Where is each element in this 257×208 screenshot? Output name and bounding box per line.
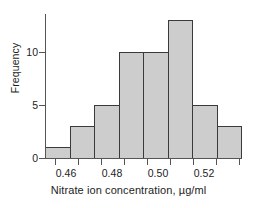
histogram-bar: [70, 126, 96, 158]
histogram-bar: [143, 52, 169, 158]
x-axis-title: Nitrate ion concentration, µg/ml: [0, 184, 257, 196]
x-tick-label-052: 0.52: [187, 167, 221, 179]
x-tick-label-048: 0.48: [95, 167, 129, 179]
x-axis-line: [45, 158, 242, 159]
x-tick-label-050: 0.50: [141, 167, 175, 179]
y-tick-label-0: 0: [12, 153, 38, 163]
x-tick-mark-7: [216, 159, 217, 165]
histogram-bar: [192, 105, 218, 158]
x-tick-mark-5: [170, 159, 171, 165]
histogram-bar: [168, 20, 194, 158]
histogram-bar: [45, 147, 71, 158]
y-tick-mark-0: [39, 158, 46, 159]
plot-area: [45, 14, 241, 158]
x-tick-mark-0: [55, 159, 56, 165]
y-axis-line: [45, 14, 46, 159]
histogram-bar: [217, 126, 243, 158]
x-tick-mark-2: [101, 159, 102, 165]
x-tick-label-046: 0.46: [49, 167, 83, 179]
x-tick-mark-6: [193, 159, 194, 165]
histogram-figure: 0 5 10 0.46 0.48 0.50 0.52 Frequency Nit…: [0, 0, 257, 208]
x-tick-mark-3: [124, 159, 125, 165]
y-axis-title: Frequency: [9, 20, 21, 116]
histogram-bar: [94, 105, 120, 158]
x-tick-mark-8: [239, 159, 240, 165]
y-tick-mark-5: [39, 105, 46, 106]
x-tick-mark-4: [147, 159, 148, 165]
x-tick-mark-1: [78, 159, 79, 165]
y-tick-mark-10: [39, 52, 46, 53]
bar-series: [45, 14, 241, 158]
histogram-bar: [119, 52, 145, 158]
